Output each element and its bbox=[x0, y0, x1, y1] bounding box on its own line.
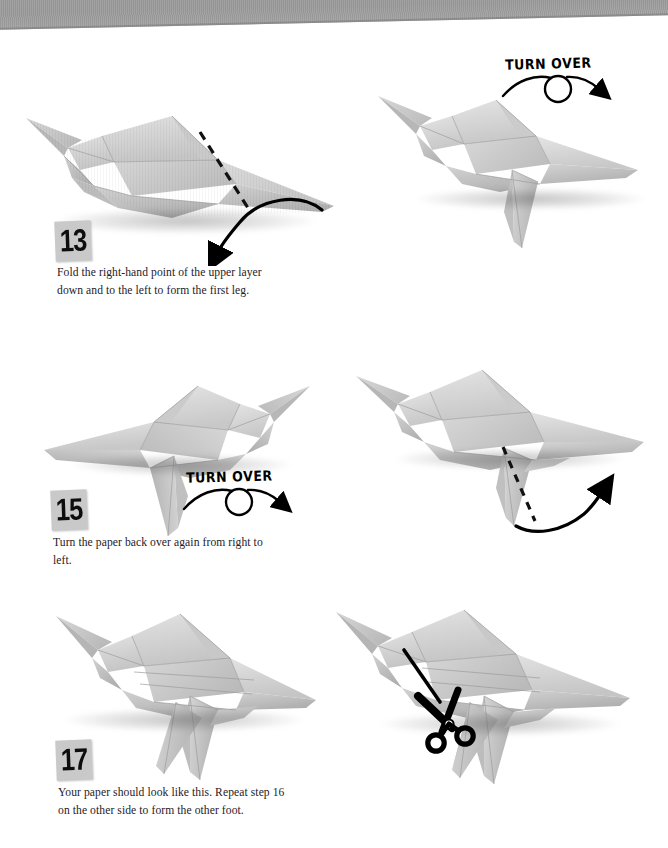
step-caption-17: Your paper should look like this. Repeat… bbox=[58, 784, 286, 821]
turn-over-label: TURN OVER bbox=[505, 54, 592, 73]
page-top-edge bbox=[0, 0, 668, 34]
step-badge-13: 13 bbox=[54, 220, 92, 261]
page-edge-texture bbox=[0, 0, 668, 30]
origami-model-14 bbox=[376, 92, 668, 292]
page-edge-band bbox=[0, 0, 668, 30]
step-badge-15: 15 bbox=[50, 489, 88, 530]
step-number: 15 bbox=[55, 494, 83, 526]
scissors-icon bbox=[396, 644, 506, 758]
step-caption-13: Fold the right-hand point of the upper l… bbox=[57, 264, 272, 301]
turn-over-symbol-15: TURN OVER bbox=[178, 469, 296, 521]
turn-over-symbol-14: TURN OVER bbox=[497, 56, 615, 108]
instruction-steps-grid: 13 Fold the right-hand point of the uppe… bbox=[0, 34, 668, 848]
turn-over-label: TURN OVER bbox=[186, 467, 273, 486]
step-number: 17 bbox=[60, 744, 88, 776]
fold-arrow-16 bbox=[512, 470, 632, 540]
fold-arrow-13 bbox=[196, 196, 336, 266]
step-caption-15: Turn the paper back over again from righ… bbox=[53, 534, 283, 571]
step-number: 13 bbox=[59, 225, 87, 257]
step-badge-17: 17 bbox=[55, 739, 93, 780]
